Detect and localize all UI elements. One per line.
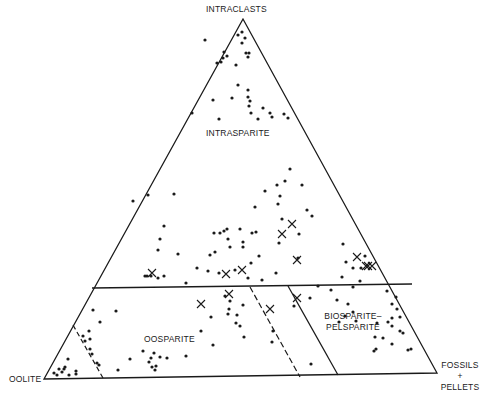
- data-point-dot: [271, 329, 274, 332]
- data-point-dot: [401, 331, 404, 334]
- data-point-dot: [246, 55, 249, 58]
- data-point-dot: [282, 112, 285, 115]
- vertex-label-fossils: FOSSILS: [440, 360, 480, 371]
- data-point-dot: [247, 104, 250, 107]
- data-point-dot: [114, 309, 117, 312]
- data-point-dot: [351, 266, 354, 269]
- data-point-dot: [242, 335, 245, 338]
- data-point-dot: [358, 279, 361, 282]
- data-point-dot: [250, 231, 253, 234]
- data-point-dot: [236, 33, 239, 36]
- data-point-dot: [219, 60, 222, 63]
- data-point-dot: [288, 167, 291, 170]
- data-point-dot: [274, 271, 277, 274]
- data-point-dot: [211, 98, 214, 101]
- data-point-dot: [131, 199, 134, 202]
- data-point-dot: [244, 51, 247, 54]
- data-point-dot: [228, 299, 231, 302]
- data-point-dot: [81, 334, 84, 337]
- data-point-dot: [249, 261, 252, 264]
- data-point-dot: [225, 54, 228, 57]
- data-point-dot: [257, 254, 260, 257]
- data-point-dot: [297, 232, 300, 235]
- data-point-dot: [156, 276, 159, 279]
- data-point-dot: [394, 295, 397, 298]
- data-point-dot: [150, 365, 153, 368]
- data-point-dot: [217, 271, 220, 274]
- data-point-dot: [283, 179, 286, 182]
- data-point-dot: [147, 360, 150, 363]
- intrasparite-boundary-line: [92, 284, 412, 288]
- data-point-dot: [158, 355, 161, 358]
- data-point-dot: [141, 349, 144, 352]
- data-point-dot: [218, 231, 221, 234]
- data-point-dot: [74, 372, 77, 375]
- data-point-dot: [146, 193, 149, 196]
- data-point-dot: [222, 229, 225, 232]
- data-point-dot: [225, 227, 228, 230]
- data-point-dot: [316, 284, 319, 287]
- data-point-dot: [221, 56, 224, 59]
- data-point-dot: [249, 111, 252, 114]
- data-point-dot: [372, 349, 375, 352]
- data-point-dot: [226, 312, 229, 315]
- data-point-dot: [409, 347, 412, 350]
- data-points-crosses: [148, 220, 376, 313]
- data-point-dot: [310, 214, 313, 217]
- data-point-dot: [395, 307, 398, 310]
- data-point-dot: [256, 117, 259, 120]
- data-point-dot: [308, 296, 311, 299]
- vertex-label-plus: +: [440, 371, 480, 382]
- data-point-dot: [286, 116, 289, 119]
- oosparite-mid-dashed-line: [250, 287, 300, 377]
- data-point-dot: [211, 343, 214, 346]
- data-point-dot: [230, 96, 233, 99]
- data-point-dot: [390, 342, 393, 345]
- data-point-dot: [153, 368, 156, 371]
- data-point-dot: [176, 252, 179, 255]
- data-point-dot: [98, 320, 101, 323]
- data-point-dot: [406, 348, 409, 351]
- data-point-dot: [235, 313, 238, 316]
- data-point-dot: [398, 315, 401, 318]
- data-point-dot: [206, 269, 209, 272]
- data-point-dot: [116, 368, 119, 371]
- data-point-dot: [162, 224, 165, 227]
- data-point-dot: [208, 253, 211, 256]
- ternary-diagram: [0, 0, 483, 396]
- data-point-dot: [227, 307, 230, 310]
- data-point-cross-icon: [225, 290, 233, 298]
- data-point-dot: [83, 339, 86, 342]
- data-point-dot: [253, 205, 256, 208]
- data-point-dot: [184, 281, 187, 284]
- data-point-dot: [292, 304, 295, 307]
- data-point-dot: [190, 111, 193, 114]
- data-point-dot: [66, 357, 69, 360]
- data-point-dot: [240, 30, 243, 33]
- oolite-boundary-dashed-line: [73, 325, 103, 378]
- vertex-label-pellets: PELLETS: [440, 382, 480, 393]
- data-point-dot: [195, 266, 198, 269]
- data-point-dot: [241, 303, 244, 306]
- data-point-dot: [149, 356, 152, 359]
- data-point-cross-icon: [288, 220, 296, 228]
- data-point-dot: [238, 324, 241, 327]
- data-point-cross-icon: [278, 230, 286, 238]
- data-point-dot: [91, 308, 94, 311]
- data-point-dot: [300, 183, 303, 186]
- data-point-dot: [212, 231, 215, 234]
- data-point-dot: [329, 288, 332, 291]
- data-point-dot: [260, 278, 263, 281]
- data-point-dot: [246, 88, 249, 91]
- data-point-dot: [226, 237, 229, 240]
- data-point-dot: [57, 367, 60, 370]
- data-point-cross-icon: [364, 262, 372, 270]
- vertex-label-oolite: OOLITE: [9, 374, 41, 384]
- data-point-cross-icon: [238, 266, 246, 274]
- data-point-cross-icon: [353, 253, 361, 261]
- data-point-dot: [172, 192, 175, 195]
- data-point-dot: [222, 50, 225, 53]
- field-label-biosparite-pelsparite: BIOSPARITE– PELSPARITE: [318, 311, 388, 333]
- data-point-cross-icon: [266, 305, 274, 313]
- data-point-dot: [278, 194, 281, 197]
